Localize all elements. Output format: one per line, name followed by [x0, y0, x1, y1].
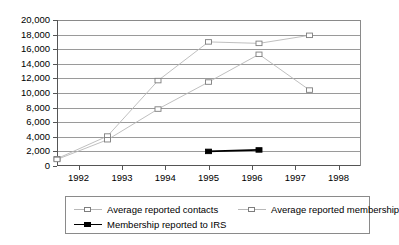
- legend-label: Average reported membership: [271, 204, 399, 215]
- data-point-marker: [256, 52, 262, 57]
- legend-label: Average reported contacts: [107, 204, 218, 215]
- data-point-marker: [307, 33, 313, 38]
- series-line: [209, 150, 260, 151]
- data-point-marker: [206, 80, 212, 85]
- legend-label: Membership reported to IRS: [107, 219, 226, 230]
- data-point-marker: [256, 148, 262, 153]
- data-point-marker: [155, 107, 161, 112]
- data-point-marker: [54, 157, 60, 162]
- legend-item-membership[interactable]: Average reported membership: [238, 204, 399, 215]
- data-point-marker: [256, 41, 262, 46]
- data-point-marker: [206, 40, 212, 45]
- legend: Average reported contacts Average report…: [65, 196, 370, 234]
- open-square-marker-icon: [238, 205, 266, 215]
- filled-square-marker-icon: [74, 220, 102, 230]
- legend-item-irs[interactable]: Membership reported to IRS: [74, 219, 226, 230]
- data-point-marker: [105, 137, 111, 142]
- data-point-marker: [307, 88, 313, 93]
- series-line: [57, 35, 310, 158]
- legend-item-contacts[interactable]: Average reported contacts: [74, 204, 218, 215]
- data-point-marker: [155, 78, 161, 83]
- open-square-marker-icon: [74, 205, 102, 215]
- data-point-marker: [206, 149, 212, 154]
- series-line: [57, 54, 310, 159]
